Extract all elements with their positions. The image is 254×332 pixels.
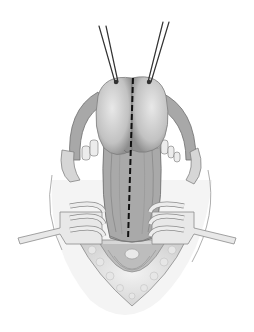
traction-sutures: [99, 22, 169, 84]
illustration-svg: [0, 0, 254, 332]
surgical-illustration: [0, 0, 254, 332]
